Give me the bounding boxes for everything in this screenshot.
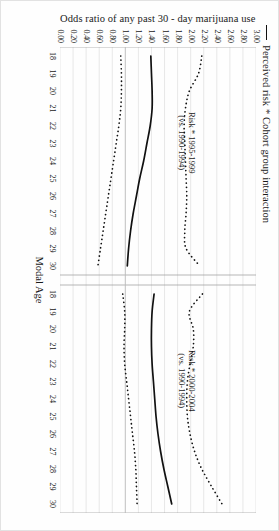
y-axis-tick-label: 1.20 [134, 29, 142, 43]
y-axis-tick-label: 2.60 [226, 29, 234, 43]
y-axis-tick-label: 2.40 [213, 29, 221, 43]
x-axis-tick-label: 24 [48, 395, 56, 403]
y-axis-tick-label: 1.00 [121, 29, 129, 43]
panel-annotation-line-2: (vs. 1990-1994) [176, 350, 187, 412]
x-axis-tick-label: 22 [48, 360, 56, 368]
plot-area: 0.000.200.400.600.801.001.201.401.601.80… [60, 47, 256, 513]
panel-annotation-line-1: Risk * 2000-2004 [187, 350, 198, 412]
y-axis-tick-label: 0.20 [69, 29, 77, 43]
y-axis-tick-label: 1.40 [147, 29, 155, 43]
x-axis-tick-label: 21 [48, 105, 56, 113]
x-axis-tick-label: 26 [48, 430, 56, 438]
y-axis-tick-label: 1.80 [174, 29, 182, 43]
panel-annotation: Risk * 1995-1999(vs. 1990-1994) [176, 112, 197, 174]
x-axis-tick-label: 30 [48, 262, 56, 270]
x-axis-tick-label: 25 [48, 175, 56, 183]
chart-legend: Perceived risk * Cohort group interactio… [261, 25, 272, 223]
x-axis-title: Modal Age [34, 257, 45, 304]
x-axis-tick-label: 21 [48, 343, 56, 351]
x-axis-tick-label: 20 [48, 87, 56, 95]
x-axis-tick-label: 28 [48, 465, 56, 473]
series-solid [151, 294, 171, 504]
series-solid [127, 56, 152, 266]
y-axis-tick-label: 0.60 [95, 29, 103, 43]
figure-rotation-wrapper: Perceived risk * Cohort group interactio… [0, 0, 279, 531]
x-axis-tick-label: 18 [48, 290, 56, 298]
x-axis-tick-label: 23 [48, 140, 56, 148]
y-axis-title: Odds ratio of any past 30 - day marijuan… [60, 13, 256, 24]
x-axis-tick-label: 18 [48, 52, 56, 60]
x-axis-tick-label: 23 [48, 378, 56, 386]
y-axis-tick-label: 0.80 [108, 29, 116, 43]
panel-annotation-line-2: (vs. 1990-1994) [176, 112, 187, 174]
y-axis-tick-label: 2.80 [239, 29, 247, 43]
legend-label: Perceived risk * Cohort group interactio… [261, 45, 272, 223]
data-series [60, 47, 256, 513]
x-axis-tick-label: 30 [48, 500, 56, 508]
series-dotted [98, 56, 122, 266]
x-axis-tick-label: 28 [48, 227, 56, 235]
x-axis-tick-label: 24 [48, 157, 56, 165]
panel-annotation-line-1: Risk * 1995-1999 [187, 112, 198, 174]
plot-clip [60, 47, 256, 513]
y-axis-tick-label: 3.00 [252, 29, 260, 43]
x-axis-tick-label: 19 [48, 308, 56, 316]
x-axis-tick-label: 19 [48, 70, 56, 78]
x-axis-tick-label: 20 [48, 325, 56, 333]
x-axis-tick-label: 29 [48, 245, 56, 253]
chart-figure: Perceived risk * Cohort group interactio… [0, 0, 279, 531]
x-axis-tick-label: 22 [48, 122, 56, 130]
x-axis-tick-label: 25 [48, 413, 56, 421]
y-axis-tick-label: 2.20 [200, 29, 208, 43]
y-axis-tick-label: 2.00 [187, 29, 195, 43]
panel-annotation: Risk * 2000-2004(vs. 1990-1994) [176, 350, 197, 412]
x-axis-tick-label: 29 [48, 483, 56, 491]
x-axis-tick-label: 26 [48, 192, 56, 200]
series-dotted [123, 294, 137, 504]
x-axis-tick-label: 27 [48, 210, 56, 218]
x-axis-tick-label: 27 [48, 448, 56, 456]
y-axis-tick-label: 1.60 [161, 29, 169, 43]
y-axis-tick-label: 0.00 [56, 29, 64, 43]
y-axis-tick-label: 0.40 [82, 29, 90, 43]
legend-solid-line-icon [266, 25, 267, 40]
